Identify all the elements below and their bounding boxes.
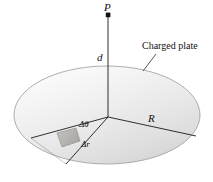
charged-plate-disk [14, 66, 200, 164]
figure-container: P d R Charged plate Δθ Δr [0, 0, 213, 182]
charged-plate-leader-line [143, 54, 156, 71]
label-delta-r: Δr [81, 140, 90, 149]
figure-drawing [0, 0, 213, 182]
label-distance-d: d [97, 52, 103, 63]
label-charged-plate: Charged plate [142, 41, 198, 51]
label-point-p: P [104, 2, 111, 13]
label-radius-r: R [148, 113, 155, 124]
point-p-marker [106, 13, 111, 18]
label-delta-theta: Δθ [79, 120, 89, 129]
